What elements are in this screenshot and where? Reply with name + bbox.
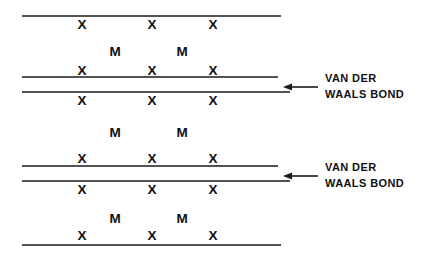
bond-label-line-1: VAN DER — [325, 70, 404, 86]
atom-label-m: M — [176, 126, 187, 140]
bond-label-line-2: WAALS BOND — [325, 175, 404, 191]
atom-label-x: X — [77, 18, 86, 32]
atom-label-x: X — [208, 94, 217, 108]
annotation-arrow-head — [283, 83, 292, 90]
atom-label-x: X — [208, 64, 217, 78]
van-der-waals-bond-lower-label: VAN DERWAALS BOND — [325, 159, 404, 191]
atom-label-x: X — [77, 94, 86, 108]
bond-label-line-1: VAN DER — [325, 159, 404, 175]
atom-label-x: X — [77, 229, 86, 243]
annotation-arrows-group — [283, 83, 318, 179]
bond-label-line-2: WAALS BOND — [325, 86, 404, 102]
atom-label-x: X — [208, 152, 217, 166]
atom-label-x: X — [77, 152, 86, 166]
annotation-arrow-head — [283, 172, 292, 179]
atom-label-x: X — [147, 64, 156, 78]
atom-label-x: X — [208, 18, 217, 32]
diagram-canvas — [0, 0, 426, 261]
van-der-waals-bond-upper-label: VAN DERWAALS BOND — [325, 70, 404, 102]
atom-label-m: M — [176, 212, 187, 226]
atom-label-x: X — [208, 229, 217, 243]
atom-label-x: X — [77, 183, 86, 197]
layer-lines-group — [22, 16, 290, 245]
atom-label-m: M — [109, 45, 120, 59]
atom-label-m: M — [176, 45, 187, 59]
atom-label-x: X — [77, 64, 86, 78]
atom-label-x: X — [147, 18, 156, 32]
atom-label-m: M — [109, 212, 120, 226]
layered-structure-diagram: XXXXXXXXXXXXXXXXXXMMMMMM VAN DERWAALS BO… — [0, 0, 426, 261]
atom-label-x: X — [147, 94, 156, 108]
atom-label-m: M — [109, 126, 120, 140]
atom-label-x: X — [147, 183, 156, 197]
atom-label-x: X — [147, 152, 156, 166]
atom-label-x: X — [147, 229, 156, 243]
atom-label-x: X — [208, 183, 217, 197]
